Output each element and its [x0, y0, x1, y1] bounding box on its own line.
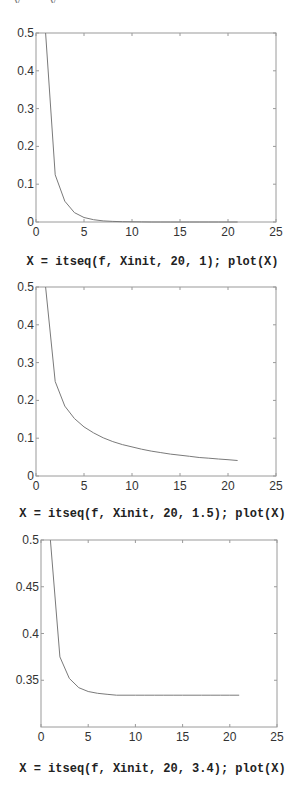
y-tick-label: 0.5 — [22, 533, 39, 547]
y-tick-label: 0.35 — [16, 673, 40, 687]
x-tick-label: 10 — [129, 730, 143, 744]
plot-3-svg: 05101520250.350.40.450.5 — [0, 0, 305, 760]
y-tick-label: 0.45 — [16, 580, 40, 594]
x-tick-label: 25 — [270, 730, 284, 744]
x-tick-label: 20 — [223, 730, 237, 744]
caption-3: X = itseq(f, Xinit, 20, 3.4); plot(X) — [0, 762, 305, 776]
y-tick-label: 0.4 — [22, 627, 39, 641]
plot-frame — [41, 540, 277, 727]
x-tick-label: 15 — [176, 730, 190, 744]
x-tick-label: 0 — [38, 730, 45, 744]
x-tick-label: 5 — [85, 730, 92, 744]
